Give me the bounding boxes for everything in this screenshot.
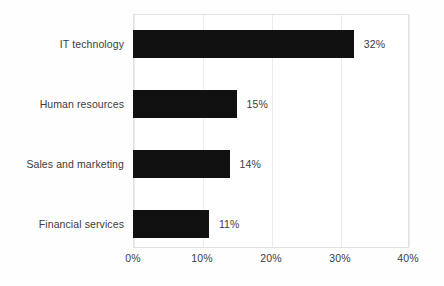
bar-row: 15% xyxy=(133,90,409,118)
x-tick-label: 10% xyxy=(191,252,212,264)
category-label: Financial services xyxy=(0,210,124,238)
category-label: Sales and marketing xyxy=(0,150,124,178)
x-tick-label: 20% xyxy=(260,252,281,264)
bar-value-label: 32% xyxy=(364,38,385,50)
x-tick-label: 30% xyxy=(329,252,350,264)
category-axis-labels: IT technology Human resources Sales and … xyxy=(0,14,124,248)
bar-chart: IT technology Human resources Sales and … xyxy=(0,0,444,286)
bar[interactable] xyxy=(133,90,237,118)
bar-row: 11% xyxy=(133,210,409,238)
x-tick-label: 40% xyxy=(397,252,418,264)
bar[interactable] xyxy=(133,30,354,58)
bar-row: 32% xyxy=(133,30,409,58)
x-axis: 0% 10% 20% 30% 40% xyxy=(133,252,409,272)
bar[interactable] xyxy=(133,150,230,178)
x-tick-label: 0% xyxy=(125,252,140,264)
bar-value-label: 11% xyxy=(219,218,240,230)
gridline xyxy=(409,15,410,247)
category-label: IT technology xyxy=(0,30,124,58)
bar[interactable] xyxy=(133,210,209,238)
bar-row: 14% xyxy=(133,150,409,178)
category-label: Human resources xyxy=(0,90,124,118)
bar-value-label: 15% xyxy=(247,98,268,110)
bar-value-label: 14% xyxy=(240,158,261,170)
bars-layer: 32% 15% 14% 11% xyxy=(133,14,409,248)
